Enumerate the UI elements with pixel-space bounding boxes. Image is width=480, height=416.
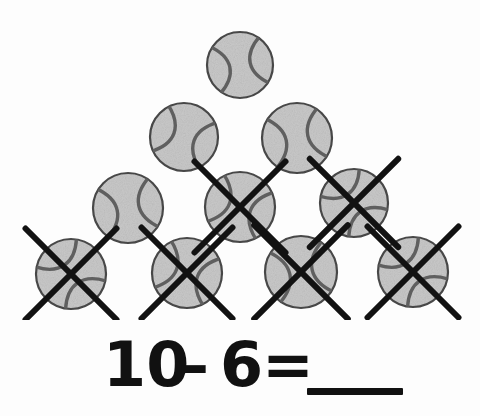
equation-minuend: 10 <box>103 328 189 401</box>
tennis-ball <box>93 173 163 243</box>
tennis-ball <box>207 32 273 98</box>
equation-subtrahend: 6 <box>220 328 263 401</box>
ball-body <box>262 103 332 173</box>
ball-body <box>93 173 163 243</box>
ball-illustration-canvas <box>0 0 480 320</box>
tennis-ball <box>150 103 218 171</box>
ball-body <box>150 103 218 171</box>
equation-equals-sign: = <box>262 328 314 401</box>
equation-minus-operator: – <box>178 328 209 401</box>
ball-illustration <box>0 0 480 320</box>
equation-canvas: 10 – 6 = <box>0 326 480 410</box>
ball-body <box>207 32 273 98</box>
equation-line: 10 – 6 = <box>0 326 480 410</box>
worksheet-page: 10 – 6 = <box>0 0 480 416</box>
tennis-ball <box>262 103 332 173</box>
answer-blank[interactable] <box>307 388 403 395</box>
